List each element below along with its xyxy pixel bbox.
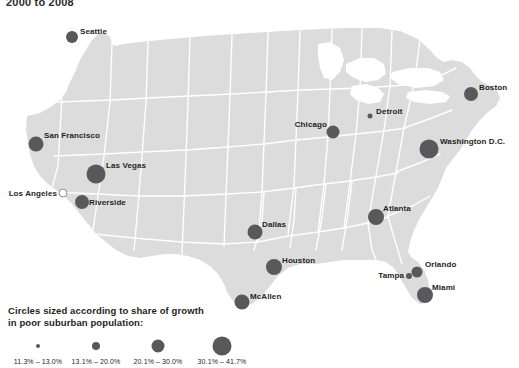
city-label-las-vegas: Las Vegas	[106, 161, 146, 170]
city-label-riverside: Riverside	[89, 198, 126, 207]
city-label-washington-d-c: Washington D.C.	[440, 137, 505, 146]
city-label-seattle: Seattle	[80, 27, 107, 36]
legend-label-2: 13.1% – 20.0%	[72, 358, 121, 365]
city-label-boston: Boston	[479, 83, 507, 92]
city-dot-los-angeles[interactable]	[59, 189, 68, 198]
legend-heading: Circles sized according to share of grow…	[8, 305, 268, 329]
city-dot-las-vegas[interactable]	[87, 165, 106, 184]
legend-heading-line1: Circles sized according to share of grow…	[8, 305, 268, 317]
legend-circles	[8, 334, 268, 358]
city-dot-washington-d-c[interactable]	[420, 140, 439, 159]
legend-circle-4	[213, 337, 232, 356]
city-label-chicago: Chicago	[295, 120, 327, 129]
city-label-atlanta: Atlanta	[383, 204, 411, 213]
city-label-houston: Houston	[282, 256, 315, 265]
legend-circle-1	[36, 344, 40, 348]
legend-label-1: 11.3% – 13.0%	[14, 358, 62, 365]
map-visualization: 2000 to 2008 SeattleSan FranciscoLos Ang…	[0, 0, 519, 368]
legend-label-4: 30.1% – 41.7%	[198, 358, 247, 365]
city-dot-orlando[interactable]	[412, 267, 423, 278]
city-label-miami: Miami	[432, 283, 455, 292]
city-label-mcallen: McAllen	[250, 292, 281, 301]
city-label-los-angeles: Los Angeles	[9, 189, 57, 198]
city-label-dallas: Dallas	[262, 220, 286, 229]
city-label-tampa: Tampa	[378, 271, 404, 280]
legend-labels: 11.3% – 13.0%13.1% – 20.0%20.1% – 30.0%3…	[8, 358, 268, 368]
city-dot-houston[interactable]	[266, 259, 282, 275]
city-dot-miami[interactable]	[417, 287, 433, 303]
city-dot-detroit[interactable]	[368, 114, 373, 119]
city-dot-dallas[interactable]	[248, 225, 263, 240]
city-label-detroit: Detroit	[376, 107, 402, 116]
legend-circle-2	[92, 342, 100, 350]
legend-circle-3	[152, 340, 165, 353]
legend: Circles sized according to share of grow…	[8, 305, 268, 365]
city-label-san-francisco: San Francisco	[44, 131, 100, 140]
legend-heading-line2: in poor suburban population:	[8, 317, 268, 329]
legend-label-3: 20.1% – 30.0%	[134, 358, 183, 365]
city-dot-atlanta[interactable]	[368, 209, 384, 225]
city-dot-chicago[interactable]	[327, 126, 340, 139]
city-dot-boston[interactable]	[464, 87, 478, 101]
city-dot-seattle[interactable]	[66, 31, 78, 43]
city-label-orlando: Orlando	[425, 260, 456, 269]
city-dot-riverside[interactable]	[75, 195, 89, 209]
city-dot-san-francisco[interactable]	[29, 137, 44, 152]
